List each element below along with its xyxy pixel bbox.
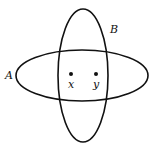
point-y-label: y <box>92 78 100 91</box>
point-x-dot <box>69 72 73 76</box>
set-b-ellipse <box>58 9 108 142</box>
set-b-label: B <box>109 23 118 36</box>
set-a-label: A <box>4 69 13 82</box>
point-y-dot <box>94 72 98 76</box>
venn-diagram: A B x y <box>0 0 157 150</box>
point-x-label: x <box>68 78 75 91</box>
set-a-ellipse <box>16 50 148 101</box>
